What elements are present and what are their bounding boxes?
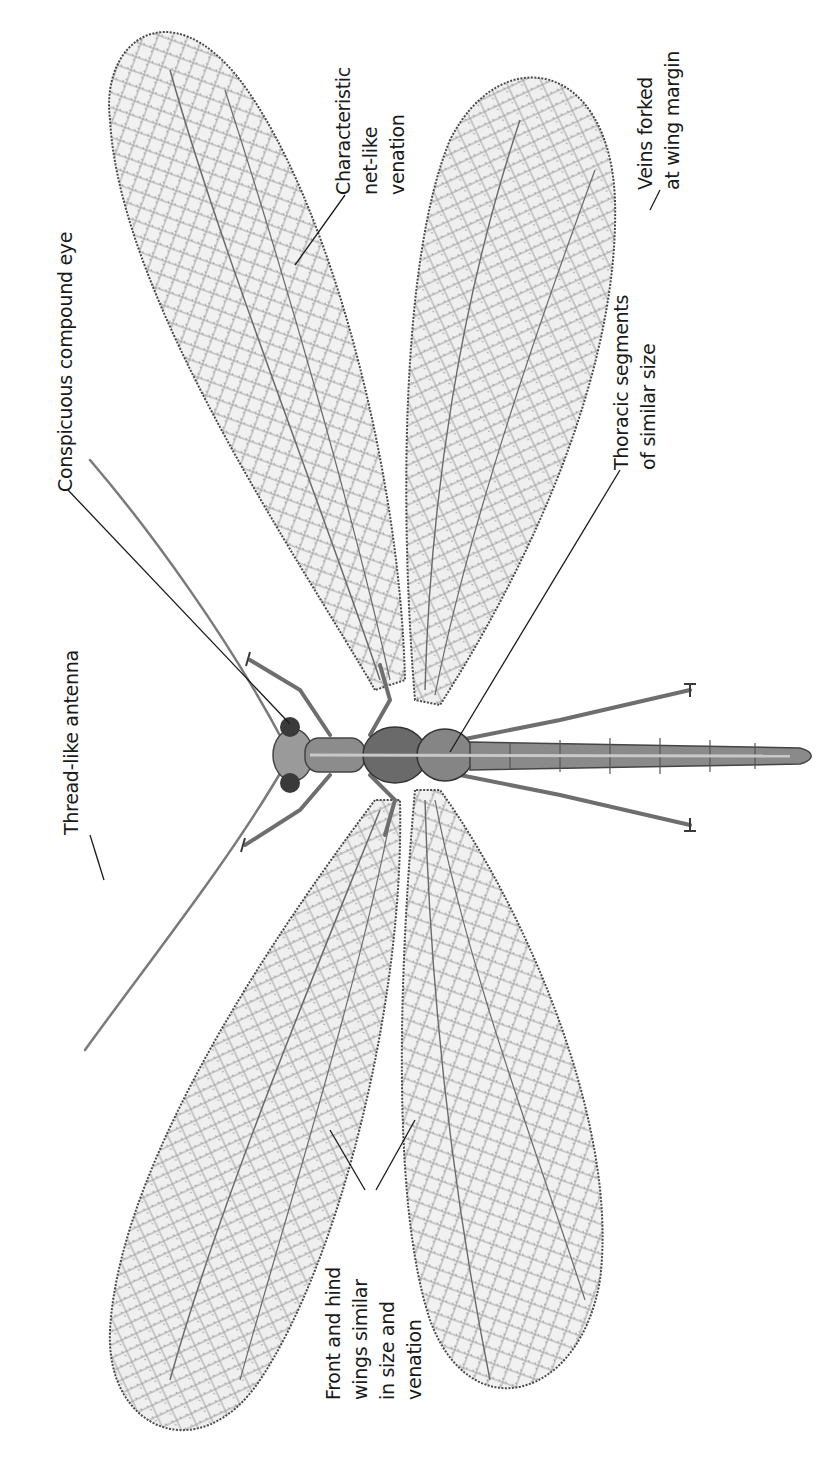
wing-hind-lower (402, 790, 603, 1388)
label-thoracic-segments: Thoracic segments of similar size (608, 295, 662, 470)
insect-body (273, 717, 811, 793)
label-compound-eye: Conspicuous compound eye (52, 232, 79, 492)
compound-eye-bottom (280, 773, 300, 793)
label-veins-forked: Veins forked at wing margin (632, 51, 686, 190)
label-thread-like-antenna: Thread-like antenna (58, 650, 85, 835)
leader-compound-eye (68, 490, 290, 724)
lacewing-illustration (0, 0, 829, 1467)
compound-eye-top (280, 717, 300, 737)
lacewing-diagram: Thread-like antenna Conspicuous compound… (0, 0, 829, 1467)
antennae (85, 460, 285, 1050)
label-net-like-venation: Characteristic net-like venation (330, 67, 411, 195)
leader-veins-forked (650, 190, 660, 210)
wing-hind-upper (406, 78, 615, 706)
label-wings-similar: Front and hind wings similar in size and… (320, 1267, 428, 1400)
leader-antenna (90, 835, 104, 880)
